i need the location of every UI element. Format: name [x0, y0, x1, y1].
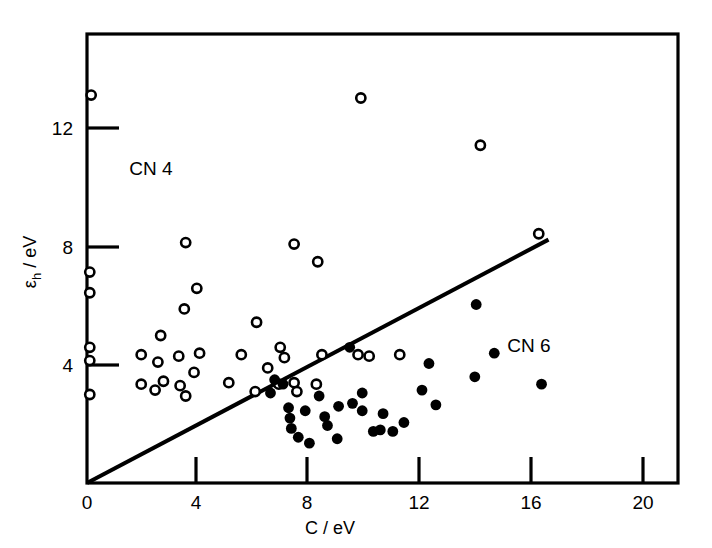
- data-point: [85, 288, 94, 297]
- y-tick-labels: 4 8 12: [52, 118, 74, 376]
- y-axis-title-unit: / eV: [20, 236, 40, 273]
- x-axis-ticks: [196, 457, 643, 483]
- y-tick-label-12: 12: [52, 118, 73, 139]
- data-point: [333, 401, 344, 412]
- data-point: [353, 350, 362, 359]
- data-point: [87, 90, 96, 99]
- data-point: [286, 423, 297, 434]
- data-point: [317, 350, 326, 359]
- data-point: [387, 426, 398, 437]
- x-tick-label-0: 0: [82, 492, 93, 513]
- data-point: [237, 350, 246, 359]
- annotation-cn4: CN 4: [129, 158, 173, 179]
- data-point: [300, 405, 311, 416]
- scatter-plot: 0 4 8 12 16 20 4 8 12 C / eV εh / eV CN: [0, 0, 712, 548]
- x-tick-labels: 0 4 8 12 16 20: [82, 492, 654, 513]
- data-point: [283, 402, 294, 413]
- data-point: [153, 357, 162, 366]
- series-cn6-points: [265, 299, 547, 448]
- data-point: [469, 371, 480, 382]
- data-point: [176, 381, 185, 390]
- data-point: [137, 380, 146, 389]
- x-tick-label-16: 16: [520, 492, 541, 513]
- data-point: [224, 378, 233, 387]
- data-point: [424, 358, 435, 369]
- data-point: [85, 267, 94, 276]
- data-point: [312, 380, 321, 389]
- data-point: [263, 363, 272, 372]
- data-point: [252, 318, 261, 327]
- y-axis-title: εh / eV: [20, 236, 44, 288]
- data-point: [344, 342, 355, 353]
- data-point: [417, 385, 428, 396]
- data-point: [85, 390, 94, 399]
- data-point: [192, 284, 201, 293]
- data-point: [181, 238, 190, 247]
- data-point: [322, 420, 333, 431]
- data-point: [378, 408, 389, 419]
- data-point: [489, 348, 500, 359]
- x-axis-title: C / eV: [305, 518, 355, 538]
- data-point: [189, 368, 198, 377]
- x-tick-label-12: 12: [408, 492, 429, 513]
- y-tick-label-8: 8: [62, 237, 73, 258]
- data-point: [293, 432, 304, 443]
- data-point: [151, 385, 160, 394]
- data-point: [181, 391, 190, 400]
- data-point: [285, 413, 296, 424]
- data-point: [314, 391, 325, 402]
- data-point: [347, 398, 358, 409]
- data-point: [356, 93, 365, 102]
- data-point: [313, 257, 322, 266]
- chart-figure: 0 4 8 12 16 20 4 8 12 C / eV εh / eV CN: [0, 0, 712, 548]
- x-tick-label-8: 8: [302, 492, 313, 513]
- data-point: [304, 438, 315, 449]
- data-point: [85, 356, 94, 365]
- data-point: [430, 399, 441, 410]
- data-point: [159, 377, 168, 386]
- data-point: [357, 388, 368, 399]
- y-axis-title-symbol: ε: [20, 280, 40, 288]
- data-point: [399, 417, 410, 428]
- data-point: [534, 229, 543, 238]
- data-point: [251, 387, 260, 396]
- data-point: [278, 379, 289, 390]
- y-axis-ticks: [87, 128, 119, 365]
- data-point: [536, 379, 547, 390]
- data-point: [365, 352, 374, 361]
- data-point: [180, 304, 189, 313]
- data-point: [395, 350, 404, 359]
- data-point: [292, 387, 301, 396]
- data-point: [276, 343, 285, 352]
- data-point: [195, 349, 204, 358]
- x-tick-label-20: 20: [632, 492, 653, 513]
- x-tick-label-4: 4: [191, 492, 202, 513]
- data-point: [137, 350, 146, 359]
- data-point: [290, 239, 299, 248]
- data-point: [174, 352, 183, 361]
- data-point: [476, 141, 485, 150]
- data-point: [375, 425, 386, 436]
- data-point: [332, 433, 343, 444]
- annotation-cn6: CN 6: [507, 335, 550, 356]
- data-point: [85, 343, 94, 352]
- data-point: [471, 299, 482, 310]
- series-cn4-points: [85, 90, 543, 400]
- svg-text:εh / eV: εh / eV: [20, 236, 44, 288]
- y-axis-title-subscript: h: [29, 273, 44, 280]
- y-tick-label-4: 4: [62, 355, 73, 376]
- data-point: [156, 331, 165, 340]
- data-point: [280, 353, 289, 362]
- data-point: [265, 388, 276, 399]
- data-point: [357, 405, 368, 416]
